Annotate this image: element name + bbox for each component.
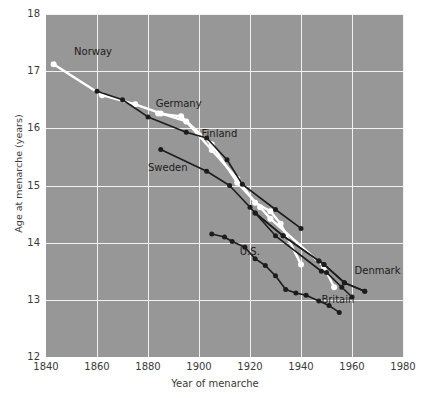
- data-series-layer: [46, 14, 403, 357]
- data-point: [362, 289, 367, 294]
- grid-line-vertical: [403, 14, 404, 357]
- data-point: [281, 233, 286, 238]
- series-line: [161, 149, 352, 296]
- data-point: [209, 232, 214, 237]
- data-point: [248, 205, 253, 210]
- data-point: [324, 270, 329, 275]
- series-sweden: [158, 147, 354, 299]
- data-point: [158, 147, 163, 152]
- data-point: [321, 262, 326, 267]
- x-tick-label: 1920: [228, 361, 272, 372]
- data-point: [95, 89, 100, 94]
- y-tick-label: 18: [16, 8, 40, 19]
- y-tick-label: 13: [16, 294, 40, 305]
- data-point: [299, 226, 304, 231]
- y-tick-label: 17: [16, 65, 40, 76]
- x-tick-label: 1860: [75, 361, 119, 372]
- x-tick-label: 1840: [24, 361, 68, 372]
- data-point: [225, 157, 230, 162]
- data-point: [240, 182, 245, 187]
- data-point: [204, 169, 209, 174]
- data-point: [227, 183, 232, 188]
- x-tick-label: 1980: [381, 361, 425, 372]
- data-point: [283, 287, 288, 292]
- data-point: [267, 208, 273, 214]
- data-point: [146, 114, 151, 119]
- x-tick-label: 1940: [279, 361, 323, 372]
- data-point: [51, 61, 57, 67]
- data-point: [155, 110, 161, 116]
- series-label-denmark: Denmark: [355, 265, 401, 276]
- data-point: [319, 269, 324, 274]
- x-axis-title: Year of menarche: [0, 378, 430, 389]
- data-point: [184, 130, 189, 135]
- series-britain: [253, 210, 368, 293]
- data-point: [273, 207, 278, 212]
- data-point: [342, 280, 347, 285]
- y-axis-title: Age at menarche (years): [13, 104, 24, 244]
- data-point: [293, 290, 298, 295]
- data-point: [257, 204, 263, 210]
- data-point: [337, 310, 342, 315]
- series-label-germany: Germany: [156, 98, 202, 109]
- series-label-norway: Norway: [74, 46, 112, 57]
- series-line: [255, 213, 365, 291]
- data-point: [316, 258, 321, 263]
- series-line: [255, 213, 365, 291]
- series-line: [97, 91, 301, 228]
- data-point: [230, 239, 235, 244]
- x-tick-label: 1900: [177, 361, 221, 372]
- data-point: [331, 284, 337, 290]
- series-label-britain: Britain: [321, 294, 354, 305]
- x-tick-label: 1960: [330, 361, 374, 372]
- x-tick-label: 1880: [126, 361, 170, 372]
- data-point: [273, 273, 278, 278]
- data-point: [222, 234, 227, 239]
- data-point: [263, 263, 268, 268]
- data-point: [339, 285, 344, 290]
- data-point: [304, 293, 309, 298]
- chart-figure: NorwayGermanyFinlandSwedenU.S.DenmarkBri…: [0, 0, 430, 398]
- data-point: [298, 261, 304, 267]
- plot-area: NorwayGermanyFinlandSwedenU.S.DenmarkBri…: [46, 14, 403, 357]
- data-point: [178, 113, 184, 119]
- data-point: [267, 216, 273, 222]
- data-point: [253, 210, 258, 215]
- series-label-u-s: U.S.: [240, 246, 260, 257]
- data-point: [120, 97, 125, 102]
- data-point: [273, 233, 278, 238]
- series-label-finland: Finland: [202, 128, 238, 139]
- series-denmark: [253, 210, 368, 293]
- series-label-sweden: Sweden: [148, 162, 188, 173]
